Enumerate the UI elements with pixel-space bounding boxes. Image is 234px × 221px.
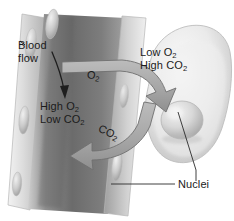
subscript-2: 2 [80,118,84,127]
label-vessel-gas-line1: High O2 [40,100,79,112]
label-vessel-gas: High O2 Low CO2 [40,100,85,125]
label-cell-gas: Low O2 High CO2 [140,46,187,71]
subscript-2: 2 [75,105,79,114]
label-vessel-gas-line2: Low CO2 [40,113,85,125]
label-nuclei: Nuclei [178,178,209,191]
label-cell-gas-line2: High CO2 [140,59,187,71]
subscript-2: 2 [183,64,187,73]
cell-nucleus-highlight [167,107,183,120]
label-o2: O2 [86,68,101,82]
label-cell-gas-line1: Low O2 [140,46,177,58]
gas-exchange-figure: Blood flow High O2 Low CO2 Low O2 High C… [0,0,234,221]
label-blood-flow-line2: flow [18,52,38,64]
subscript-2: 2 [172,51,176,60]
label-blood-flow-line1: Blood [18,39,47,51]
label-blood-flow: Blood flow [18,39,47,64]
cell-nucleus-shadow [162,134,202,144]
